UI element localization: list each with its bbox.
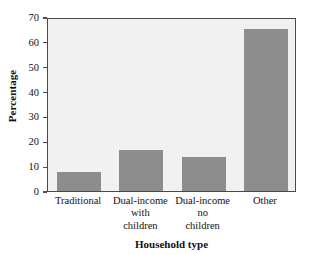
y-axis-tick-label: 10 [29, 160, 40, 173]
plot-area [47, 18, 296, 192]
y-axis-tick-label: 70 [29, 11, 40, 24]
y-axis-tick-label: 30 [29, 110, 40, 123]
bar-chart-figure: Percentage 010203040506070 TraditionalDu… [0, 0, 310, 255]
y-axis-tick-label: 40 [29, 86, 40, 99]
y-axis-tick-label: 60 [29, 36, 40, 49]
x-axis-tick-label-line: Other [227, 195, 303, 207]
bar [244, 29, 288, 191]
bar [57, 172, 101, 191]
y-axis-tick-label: 0 [34, 185, 39, 198]
y-axis-tick-label: 50 [29, 61, 40, 74]
x-axis-tick-label-line: children [165, 220, 241, 232]
x-axis-tick-label: Other [227, 195, 303, 207]
bars-group [48, 19, 295, 191]
bar [182, 157, 226, 191]
x-axis-title: Household type [47, 238, 296, 250]
x-axis-tick-labels: TraditionalDual-incomewithchildrenDual-i… [47, 195, 296, 241]
y-axis-tick-label: 20 [29, 135, 40, 148]
bar [119, 150, 163, 191]
y-axis-tick-labels: 010203040506070 [0, 0, 47, 255]
x-axis-tick-label-line: no [165, 207, 241, 219]
